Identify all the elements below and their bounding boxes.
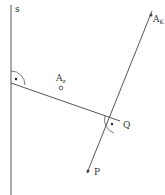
label-a-z: Az (55, 73, 66, 84)
label-s: s (15, 4, 20, 14)
perpendicular-segment (11, 83, 120, 121)
label-q: Q (123, 120, 130, 130)
right-angle-dot-s (15, 78, 17, 80)
right-angle-arc-s (11, 71, 25, 85)
label-p: P (94, 167, 100, 177)
point-p (87, 170, 90, 173)
right-angle-dot-q (111, 123, 113, 125)
point-a-z (59, 86, 63, 90)
geometry-diagram: s Az AK Q P (0, 0, 165, 195)
label-a-k: AK (152, 14, 165, 25)
oblique-line (87, 11, 152, 173)
